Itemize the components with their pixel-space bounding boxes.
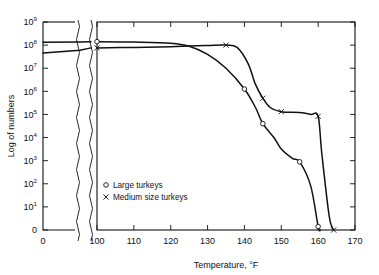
- legend-marker-circle: [104, 183, 109, 188]
- series-line-large-turkeys: [97, 42, 320, 231]
- legend-marker-cross: [103, 194, 108, 199]
- y-tick-label: 102: [24, 177, 38, 189]
- series-line-medium-turkeys: [97, 45, 334, 230]
- y-tick-label: 103: [24, 154, 38, 166]
- x-tick-label: 110: [127, 236, 141, 246]
- legend-label-large-turkeys: Large turkeys: [113, 181, 163, 190]
- y-tick-label: 104: [24, 131, 38, 143]
- data-point-marker-circle: [242, 87, 247, 92]
- x-tick-label: 130: [200, 236, 215, 246]
- x-tick-label: 140: [237, 236, 252, 246]
- data-point-marker-circle: [261, 121, 266, 126]
- y-tick-label: 0: [32, 225, 37, 235]
- legend-label-medium-turkeys: Medium size turkeys: [113, 193, 188, 202]
- y-tick-label: 108: [24, 38, 38, 50]
- y-axis-title: Log of numbers: [6, 94, 16, 157]
- turkey-survival-log-chart: 01011021031041051061071081090Log of numb…: [0, 0, 379, 275]
- y-tick-label: 107: [24, 61, 38, 73]
- y-tick-label: 106: [24, 85, 38, 97]
- y-tick-label: 109: [24, 15, 38, 27]
- data-point-marker-cross: [260, 96, 265, 101]
- axis-break-wave: [90, 20, 93, 241]
- series-stub-medium-turkeys: [43, 48, 91, 53]
- series-stub-large-turkeys: [43, 42, 91, 43]
- axis-break-wave: [77, 20, 80, 241]
- x-tick-label-zero: 0: [40, 236, 45, 246]
- data-point-marker-circle: [95, 39, 100, 44]
- x-axis-title: Temperature, °F: [194, 260, 259, 270]
- x-tick-label: 120: [163, 236, 178, 246]
- y-tick-label: 105: [24, 108, 38, 120]
- x-tick-label: 150: [274, 236, 289, 246]
- x-tick-label: 100: [89, 236, 104, 246]
- x-tick-label: 170: [347, 236, 362, 246]
- chart-container: 01011021031041051061071081090Log of numb…: [0, 0, 379, 275]
- data-point-marker-circle: [297, 160, 302, 165]
- x-tick-label: 160: [311, 236, 326, 246]
- y-tick-label: 101: [24, 200, 38, 212]
- data-point-marker-circle: [316, 224, 321, 229]
